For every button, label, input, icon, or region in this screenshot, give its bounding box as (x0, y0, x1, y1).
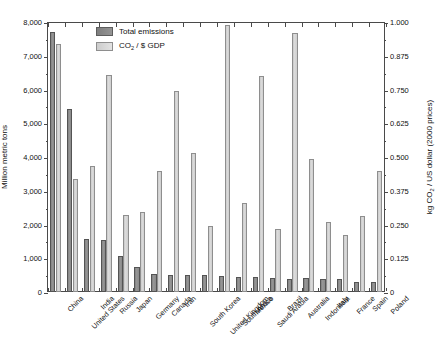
y-axis-left-tick-label: 8,000 (23, 19, 42, 27)
x-axis-category-label: China (66, 294, 86, 314)
bar-total-emissions (320, 279, 325, 292)
bar-total-emissions (67, 109, 72, 292)
y-axis-left-tick-label: 4,000 (23, 154, 42, 162)
bar-total-emissions (219, 276, 224, 292)
bar-group (354, 22, 365, 292)
x-axis-category-label: Poland (388, 294, 410, 316)
bar-co2-per-gdp (309, 159, 314, 292)
bar-group (151, 22, 162, 292)
legend-swatch-total-emissions (96, 27, 113, 36)
bar-group (67, 22, 78, 292)
bar-group (50, 22, 61, 292)
bar-group (118, 22, 129, 292)
bar-group (84, 22, 95, 292)
bar-total-emissions (202, 275, 207, 292)
legend-item-total-emissions: Total emissions (96, 27, 174, 36)
legend-label-total-emissions: Total emissions (119, 27, 174, 36)
bar-group (371, 22, 382, 292)
legend-label-prefix: CO (119, 41, 131, 50)
bar-co2-per-gdp (242, 203, 247, 292)
bar-co2-per-gdp (326, 222, 331, 292)
legend-label-suffix: / $ GDP (134, 41, 165, 50)
bar-group (253, 22, 264, 292)
bar-co2-per-gdp (259, 76, 264, 292)
bar-group (303, 22, 314, 292)
y-axis-left-tick-label: 1,000 (23, 256, 42, 264)
bar-total-emissions (118, 256, 123, 292)
bar-group (134, 22, 145, 292)
y-axis-left-title: Million metric tons (0, 125, 9, 189)
bar-co2-per-gdp (377, 171, 382, 292)
bar-co2-per-gdp (90, 166, 95, 292)
chart-legend: Total emissions CO2 / $ GDP (96, 27, 174, 51)
bar-group (185, 22, 196, 292)
bar-group (219, 22, 230, 292)
bar-group (287, 22, 298, 292)
top-axis-tick (386, 23, 387, 27)
bars-layer (47, 22, 385, 292)
legend-item-co2-per-gdp: CO2 / $ GDP (96, 41, 174, 51)
y-axis-right-tick-label: 0.375 (390, 188, 409, 196)
bar-total-emissions (185, 275, 190, 292)
bar-total-emissions (287, 279, 292, 293)
y-axis-right-tick-label: 0.750 (390, 87, 409, 95)
bar-group (270, 22, 281, 292)
legend-swatch-co2-per-gdp (96, 42, 113, 51)
bar-co2-per-gdp (343, 235, 348, 293)
bar-group (101, 22, 112, 292)
y-axis-right-tick-label: 0.500 (390, 154, 409, 162)
y-axis-left-tick-label: 7,000 (23, 53, 42, 61)
bar-co2-per-gdp (360, 216, 365, 292)
bar-total-emissions (270, 278, 275, 293)
bar-co2-per-gdp (208, 226, 213, 292)
bar-total-emissions (101, 240, 106, 292)
bar-total-emissions (371, 282, 376, 292)
bar-total-emissions (151, 274, 156, 292)
y-axis-right-tick-label: 0.875 (390, 53, 409, 61)
bar-total-emissions (253, 277, 258, 292)
y-axis-right-title: kg CO2 / US dollar (2000 prices) (425, 100, 435, 214)
bar-co2-per-gdp (56, 44, 61, 292)
bar-total-emissions (337, 279, 342, 293)
bar-co2-per-gdp (157, 171, 162, 292)
legend-label-co2-per-gdp: CO2 / $ GDP (119, 41, 165, 51)
y-axis-right-tick-label: 1.000 (390, 19, 409, 27)
bar-total-emissions (354, 282, 359, 292)
bar-total-emissions (303, 278, 308, 292)
y-axis-left-tick-label: 5,000 (23, 121, 42, 129)
y-axis-left-tick-label: 0 (38, 289, 42, 297)
bar-co2-per-gdp (225, 25, 230, 292)
bar-co2-per-gdp (275, 229, 280, 292)
bar-group (236, 22, 247, 292)
bar-co2-per-gdp (106, 75, 111, 292)
y-axis-left-tick-label: 2,000 (23, 222, 42, 230)
bar-total-emissions (134, 267, 139, 292)
co2-emissions-bar-chart: Million metric tons kg CO2 / US dollar (… (0, 0, 444, 355)
bar-total-emissions (84, 239, 89, 292)
y-axis-right-title-subscript: 2 (429, 188, 435, 191)
y-axis-left-tick-label: 6,000 (23, 87, 42, 95)
bar-co2-per-gdp (73, 179, 78, 292)
y-axis-left-tick-label: 3,000 (23, 188, 42, 196)
y-axis-right-title-suffix: / US dollar (2000 prices) (425, 100, 434, 188)
y-axis-right-tick-label: 0.250 (390, 222, 409, 230)
bar-co2-per-gdp (174, 91, 179, 292)
bar-group (202, 22, 213, 292)
x-axis-tick (386, 288, 387, 291)
y-axis-right-title-prefix: kg CO (425, 191, 434, 214)
bar-co2-per-gdp (123, 215, 128, 292)
bar-co2-per-gdp (191, 153, 196, 292)
bar-co2-per-gdp (292, 33, 297, 292)
y-axis-right-tick-label: 0.125 (390, 256, 409, 264)
y-axis-right-tick-label: 0 (390, 289, 394, 297)
bar-group (337, 22, 348, 292)
bar-group (320, 22, 331, 292)
bar-total-emissions (50, 32, 55, 292)
x-axis-category-label: Mexico (253, 294, 275, 316)
bar-group (168, 22, 179, 292)
bar-co2-per-gdp (140, 212, 145, 292)
x-axis-category-labels: ChinaUnited StatesIndiaRussiaJapanGerman… (47, 294, 385, 354)
y-axis-right-tick-label: 0.625 (390, 121, 409, 129)
bar-total-emissions (168, 275, 173, 292)
bar-total-emissions (236, 277, 241, 292)
